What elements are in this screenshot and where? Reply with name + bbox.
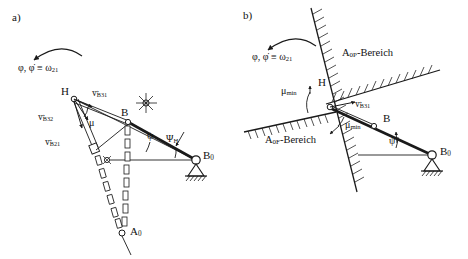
point-label-A0-a: A0 <box>130 226 142 239</box>
joint-B0-a <box>192 156 200 164</box>
rotation-note-a: φ, φ̇ ≡ ω21 <box>18 63 58 74</box>
hatch-boundary-A0P-b <box>332 65 432 102</box>
point-label-B0-b-sub: 0 <box>447 150 451 158</box>
support-triangle-B0-b <box>424 159 440 171</box>
angle-pointer-mumin-lower-b <box>330 126 339 134</box>
panel-a-graphics <box>34 49 207 255</box>
panel-label-b: b) <box>243 10 252 21</box>
vector-arrow-overbar-vB31-a: → <box>92 87 97 95</box>
point-label-B-b: B <box>383 113 390 124</box>
crank-A0-tail <box>122 236 131 255</box>
point-label-H-a: H <box>61 86 69 97</box>
region-label-A0F-base: A <box>265 134 273 145</box>
vector-label-vB31-b: →vB31 <box>355 100 370 110</box>
angle-label-mumin-lower-b: μmin <box>345 120 361 131</box>
angle-label-psiH-a-sub: H <box>173 137 178 144</box>
point-label-H-b: H <box>318 77 326 88</box>
rotation-arc-arrow-a <box>34 49 82 60</box>
angle-pointer-psi-b <box>396 132 397 143</box>
figure-canvas: a) φ, φ̇ ≡ ω21 H B B0 A0 →vB31 →vB32 →vB… <box>0 0 468 259</box>
panel-label-a: a) <box>12 12 21 23</box>
vector-label-vB32-a: →vB32 <box>38 113 53 123</box>
rotation-note-a-sub: 21 <box>52 66 59 73</box>
rotation-note-b-sub: 21 <box>286 55 293 62</box>
angle-label-psiH-a: ΨH <box>166 134 178 145</box>
point-label-B0-b: B0 <box>440 146 451 159</box>
point-label-A0-a-sub: 0 <box>138 230 142 238</box>
rotation-arc-arrow-b <box>268 39 316 50</box>
link-H-B-B0-b <box>330 108 432 155</box>
joint-B-b <box>371 123 376 128</box>
angle-arc-mumin-upper-b <box>307 92 310 113</box>
region-label-A0P-sub: 0P <box>350 51 357 58</box>
angle-label-psi-a: ψ <box>147 131 153 141</box>
joint-B0-b <box>428 151 436 159</box>
point-label-B0-a-sub: 0 <box>210 154 214 162</box>
joint-A0 <box>119 230 125 236</box>
rotation-note-b: φ, φ̇ ≡ ω21 <box>252 52 292 63</box>
link-B-B0 <box>128 122 196 160</box>
region-label-A0P-base: A <box>342 47 350 58</box>
ground-hatch-B0-a <box>186 176 206 181</box>
figure-vector-layer <box>0 0 468 259</box>
ground-hatch-B0-b <box>422 171 442 176</box>
vector-vB31-b <box>330 102 355 107</box>
point-label-B0-a: B0 <box>203 150 214 163</box>
link-B-lower-left <box>96 124 128 150</box>
region-label-A0P-suffix: -Bereich <box>357 47 393 58</box>
dash-chain-slider-to-A0 <box>95 155 122 228</box>
rotation-note-b-symbol: φ, φ̇ ≡ ω <box>252 51 286 62</box>
angle-label-mumin-upper-b: μmin <box>281 86 297 97</box>
pivot-cross-marker-a <box>136 93 157 113</box>
dash-chain-B-to-A0 <box>122 126 130 226</box>
region-label-A0F: A0F-Bereich <box>265 135 316 146</box>
angle-label-psi-b: ψ <box>389 136 395 146</box>
point-label-B-a: B <box>121 107 128 118</box>
angle-arc-psi-a <box>146 142 150 152</box>
vector-arrow-overbar-vB32-a: → <box>38 111 43 119</box>
support-triangle-B0-a <box>188 164 204 176</box>
region-label-A0P: A0P-Bereich <box>342 48 393 59</box>
panel-b-graphics <box>244 8 443 192</box>
angle-label-mumin-upper-b-sub: min <box>286 89 296 96</box>
vector-label-vB21-a: →vB21 <box>45 138 60 148</box>
rotation-note-a-symbol: φ, φ̇ ≡ ω <box>18 62 52 73</box>
angle-label-mumin-lower-b-sub: min <box>350 123 360 130</box>
point-label-A0-a-base: A <box>130 225 138 237</box>
vector-arrow-overbar-vB31-b: → <box>355 98 360 106</box>
region-label-A0F-suffix: -Bereich <box>280 134 316 145</box>
boundary-line-steep-b <box>311 8 357 192</box>
joint-B-a <box>125 119 130 124</box>
angle-label-mu-a: μ <box>89 118 94 128</box>
vector-arrow-overbar-vB21-a: → <box>45 136 50 144</box>
region-label-A0F-sub: 0F <box>273 138 280 145</box>
vector-label-vB31-a: →vB31 <box>92 89 107 99</box>
boundary-line-A0P-b <box>326 70 440 104</box>
